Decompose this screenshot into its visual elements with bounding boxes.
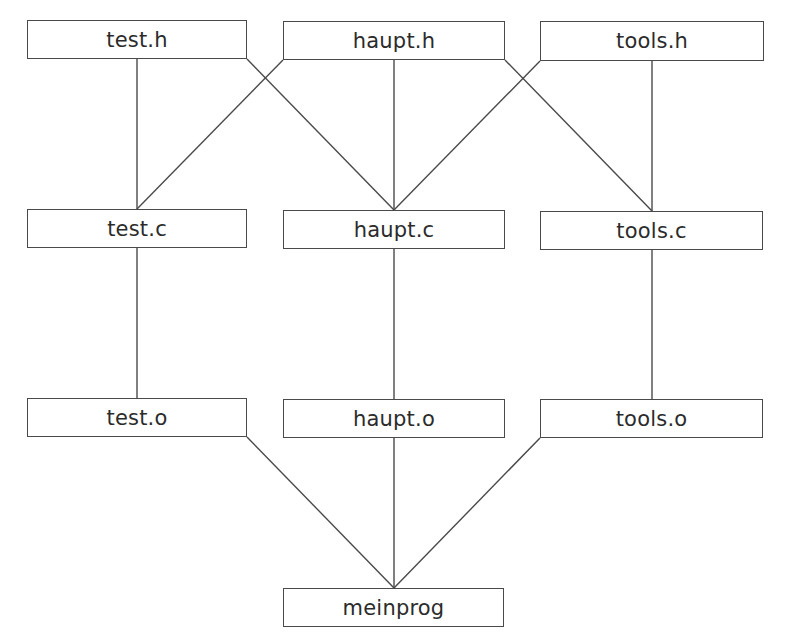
node-label: haupt.h (353, 29, 435, 53)
node-tools-h: tools.h (540, 21, 764, 61)
edge-tools-h-to-haupt-c (394, 61, 540, 210)
node-test-c: test.c (27, 209, 247, 248)
node-label: test.c (107, 217, 167, 241)
edge-haupt-h-to-test-c (137, 60, 283, 209)
node-label: haupt.o (353, 407, 435, 431)
node-label: tools.h (616, 29, 688, 53)
node-meinprog: meinprog (283, 588, 504, 627)
node-label: meinprog (343, 596, 445, 620)
edge-test-o-to-meinprog (247, 437, 394, 588)
node-label: test.o (106, 406, 167, 430)
node-label: test.h (106, 28, 168, 52)
node-label: tools.c (616, 219, 686, 243)
edge-layer (0, 0, 788, 644)
node-tools-o: tools.o (540, 399, 763, 438)
edge-haupt-h-to-tools-c (505, 60, 652, 211)
node-haupt-h: haupt.h (283, 21, 505, 60)
edge-test-h-to-haupt-c (247, 59, 394, 210)
node-haupt-o: haupt.o (283, 399, 505, 438)
node-test-o: test.o (27, 398, 247, 437)
node-label: tools.o (616, 407, 688, 431)
node-tools-c: tools.c (540, 211, 763, 250)
node-test-h: test.h (27, 20, 247, 59)
node-label: haupt.c (354, 218, 435, 242)
dependency-diagram: test.hhaupt.htools.htest.chaupt.ctools.c… (0, 0, 788, 644)
edge-tools-o-to-meinprog (394, 438, 540, 588)
node-haupt-c: haupt.c (283, 210, 505, 249)
